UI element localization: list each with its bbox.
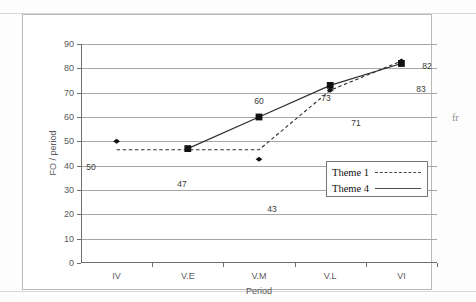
y-tick-label-80: 80 <box>64 63 74 73</box>
page-rule-bottom <box>0 291 476 292</box>
chart-legend[interactable]: Theme 1 Theme 4 <box>326 161 428 197</box>
y-tick-label-90: 90 <box>64 39 74 49</box>
data-label-60: 60 <box>254 96 263 106</box>
marker-theme4-vl <box>327 82 334 89</box>
y-tick-label-40: 40 <box>64 161 74 171</box>
series-layer <box>81 44 437 263</box>
y-axis-title: FO / period <box>48 130 58 175</box>
y-tick-label-20: 20 <box>64 209 74 219</box>
plot-area: 90 80 70 60 50 40 30 20 10 0 IV V.E V.M … <box>81 44 437 263</box>
marker-theme4-vi <box>398 60 405 67</box>
x-tick-4 <box>366 263 367 267</box>
marker-theme1-iv <box>113 139 120 144</box>
data-label-82: 82 <box>422 61 431 71</box>
y-tick-label-30: 30 <box>64 185 74 195</box>
data-label-50: 50 <box>86 162 95 172</box>
data-label-43: 43 <box>267 204 276 214</box>
legend-label-theme-1: Theme 1 <box>332 167 369 178</box>
marker-theme4-vm <box>256 114 263 121</box>
x-tick-label-ve: V.E <box>181 271 195 281</box>
legend-swatch-solid-icon <box>375 188 421 189</box>
x-tick-3 <box>295 263 296 267</box>
legend-item-theme-1[interactable]: Theme 1 <box>332 164 423 180</box>
data-label-83: 83 <box>416 84 425 94</box>
x-tick-5 <box>437 263 438 267</box>
series-theme-4-line <box>188 64 402 149</box>
data-label-71: 71 <box>351 118 360 128</box>
x-tick-label-vm: V.M <box>251 271 266 281</box>
y-tick-label-0: 0 <box>69 258 74 268</box>
x-axis-title: Period <box>246 286 272 296</box>
x-tick-1 <box>152 263 153 267</box>
y-tick-label-50: 50 <box>64 136 74 146</box>
legend-item-theme-4[interactable]: Theme 4 <box>332 180 423 196</box>
data-label-47: 47 <box>177 179 186 189</box>
y-tick-label-10: 10 <box>64 234 74 244</box>
chart-frame: FO / period Period 90 80 70 60 50 40 30 … <box>22 14 432 290</box>
marker-theme4-ve <box>184 145 191 152</box>
x-tick-label-vi: VI <box>397 271 406 281</box>
x-tick-label-vl: V.L <box>324 271 337 281</box>
data-label-73: 73 <box>321 93 330 103</box>
legend-swatch-dashed-icon <box>375 172 421 173</box>
y-tick-label-60: 60 <box>64 112 74 122</box>
y-tick-0 <box>77 263 81 264</box>
x-tick-label-iv: IV <box>112 271 121 281</box>
y-tick-label-70: 70 <box>64 88 74 98</box>
marker-theme1-vm <box>256 157 263 162</box>
caption-fragment: fr <box>452 112 476 123</box>
x-tick-2 <box>223 263 224 267</box>
legend-label-theme-4: Theme 4 <box>332 183 369 194</box>
caption-fragment-line-2: fr <box>452 112 476 123</box>
